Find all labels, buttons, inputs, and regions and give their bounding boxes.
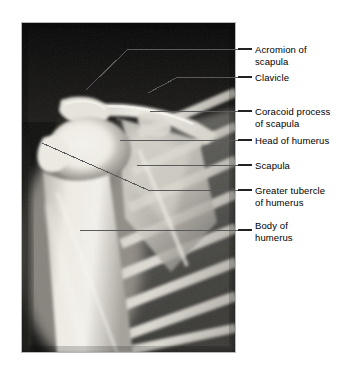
label-body-of-humerus: Body of humerus <box>255 220 347 243</box>
shoulder-radiograph <box>21 22 236 353</box>
label-head-of-humerus: Head of humerus <box>255 135 349 147</box>
radiograph-image <box>21 22 236 353</box>
label-acromion-of-scapula: Acromion of scapula <box>255 44 347 67</box>
label-coracoid-process-of-scapula: Coracoid process of scapula <box>255 106 347 129</box>
label-scapula: Scapula <box>255 160 347 172</box>
label-clavicle: Clavicle <box>255 72 347 84</box>
anatomy-figure: Acromion of scapula Clavicle Coracoid pr… <box>0 0 350 374</box>
label-greater-tubercle-of-humerus: Greater tubercle of humerus <box>255 185 349 208</box>
